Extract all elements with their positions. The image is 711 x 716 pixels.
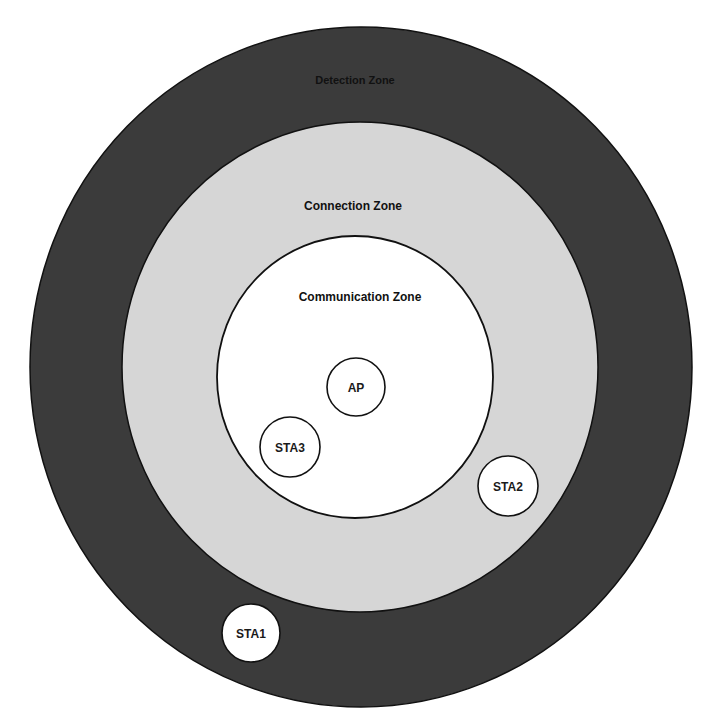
station-3-node: STA3: [260, 417, 320, 477]
connection-zone-label: Connection Zone: [304, 199, 402, 213]
station-1-label: STA1: [236, 627, 266, 641]
station-2-node: STA2: [478, 456, 538, 516]
communication-zone-label: Communication Zone: [299, 290, 422, 304]
station-3-label: STA3: [275, 441, 305, 455]
station-1-node: STA1: [222, 604, 280, 662]
zone-diagram: Detection Zone Connection Zone Communica…: [0, 0, 711, 716]
access-point-label: AP: [348, 381, 365, 395]
detection-zone-label: Detection Zone: [315, 74, 394, 86]
station-2-label: STA2: [493, 480, 523, 494]
access-point-node: AP: [327, 358, 385, 416]
